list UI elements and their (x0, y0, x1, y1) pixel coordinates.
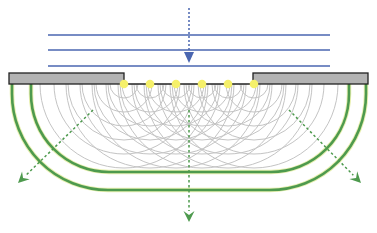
diffraction-diagram (0, 0, 377, 233)
source-point (198, 80, 207, 89)
barrier-left (9, 73, 124, 84)
diagram-canvas (0, 0, 377, 233)
source-point (250, 80, 259, 89)
source-point (120, 80, 129, 89)
slit-barriers (9, 73, 368, 84)
incident-plane-waves (48, 8, 330, 66)
arrow-down-icon (184, 52, 194, 63)
source-point (146, 80, 155, 89)
arrow-head-icon (349, 171, 361, 183)
source-point (172, 80, 181, 89)
source-point (224, 80, 233, 89)
arrow-head-icon (184, 211, 195, 222)
barrier-right (253, 73, 368, 84)
